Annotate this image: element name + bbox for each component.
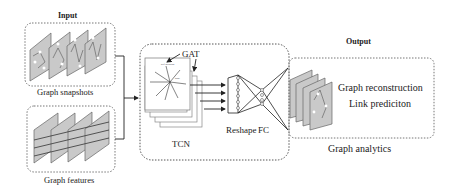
graph-snapshots-box bbox=[25, 23, 115, 86]
gat-label: GAT bbox=[182, 49, 200, 59]
input-connectors bbox=[115, 56, 138, 139]
fc-label: FC bbox=[258, 125, 269, 135]
node-caption: node bbox=[175, 77, 180, 80]
attention-caption: self-attention bbox=[161, 63, 174, 66]
graph-features-label: Graph features bbox=[44, 175, 94, 185]
gat-pointer-2 bbox=[194, 59, 196, 71]
graph-analytics-label: Graph analytics bbox=[328, 143, 391, 154]
output-title: Output bbox=[346, 37, 371, 46]
graph-features-box bbox=[27, 106, 115, 172]
task-link-prediction: Link prediciton bbox=[349, 98, 411, 109]
graph-snapshots-label: Graph snapshots bbox=[37, 87, 93, 97]
reshape-label: Reshape bbox=[226, 125, 257, 135]
output-panels bbox=[290, 70, 332, 130]
tcn-stack bbox=[145, 58, 202, 127]
input-title: Input bbox=[58, 11, 77, 20]
task-graph-reconstruction: Graph reconstruction bbox=[338, 82, 423, 93]
tcn-label: TCN bbox=[172, 139, 190, 149]
